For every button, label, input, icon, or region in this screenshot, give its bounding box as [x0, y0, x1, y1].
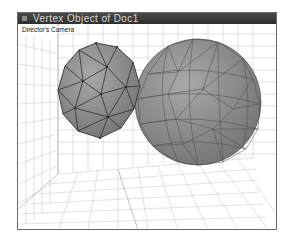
- scene-render: [18, 24, 276, 229]
- fine-geodesic-sphere[interactable]: [135, 39, 261, 165]
- 3d-viewport[interactable]: Director's Camera: [18, 24, 276, 229]
- title-bar[interactable]: Vertex Object of Doc1: [18, 13, 276, 24]
- camera-label[interactable]: Director's Camera: [21, 26, 75, 33]
- window-title: Vertex Object of Doc1: [33, 13, 139, 24]
- floor-grid: [18, 158, 276, 229]
- coarse-geodesic-sphere[interactable]: [58, 42, 140, 139]
- vertex-object-window: Vertex Object of Doc1 Director's Camera: [17, 12, 277, 230]
- window-icon: [22, 16, 27, 21]
